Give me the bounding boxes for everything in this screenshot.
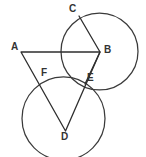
circle-lower-left: [22, 77, 105, 157]
vertex-label-a: A: [11, 42, 18, 52]
vertex-label-b: B: [104, 45, 111, 55]
geometry-figure: C B A F E D: [0, 0, 146, 157]
vertex-label-e: E: [87, 73, 94, 83]
geometry-canvas: [0, 0, 146, 157]
vertex-label-c: C: [69, 4, 76, 14]
vertex-label-d: D: [61, 132, 68, 142]
vertex-label-f: F: [41, 68, 47, 78]
triangle-abd: [21, 52, 100, 131]
